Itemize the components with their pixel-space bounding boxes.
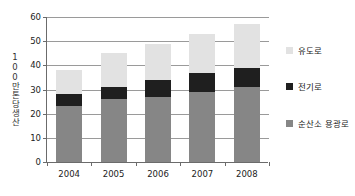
bar-group[interactable] [56,17,82,162]
bar-segment[interactable] [101,87,127,99]
x-axis-tick-label: 2008 [236,169,258,179]
bar-group[interactable] [234,17,260,162]
legend-swatch-icon [286,47,293,54]
bar-segment[interactable] [56,70,82,94]
legend-swatch-icon [286,83,293,90]
x-axis-tick-mark [136,162,137,166]
y-axis-tick-label: 40 [30,60,41,70]
stacked-bar-chart: 100만톤당생산 0102030405060 20042005200620072… [0,0,355,196]
y-axis-tick-label: 20 [30,109,41,119]
bar-segment[interactable] [234,24,260,68]
y-axis-tick-label: 10 [30,133,41,143]
x-axis-tick-mark [91,162,92,166]
bar-segment[interactable] [189,92,215,162]
legend-label: 순산소 용광로 [298,117,349,129]
y-axis-tick-label: 0 [36,157,41,167]
bar-segment[interactable] [234,68,260,87]
x-axis-tick-mark [47,162,48,166]
legend-item[interactable]: 순산소 용광로 [286,117,349,129]
bar-segment[interactable] [101,53,127,87]
x-axis-tick-label: 2007 [192,169,214,179]
y-axis-tick-label: 30 [30,85,41,95]
legend-item[interactable]: 유도로 [286,44,322,56]
x-axis-tick-mark [225,162,226,166]
bar-segment[interactable] [56,94,82,106]
bar-segment[interactable] [145,44,171,80]
legend-swatch-icon [286,120,293,127]
x-axis-tick-label: 2005 [103,169,125,179]
x-axis-tick-mark [180,162,181,166]
bar-group[interactable] [101,17,127,162]
bar-group[interactable] [189,17,215,162]
plot-area: 0102030405060 20042005200620072008 [46,17,268,163]
bar-segment[interactable] [234,87,260,162]
bar-segment[interactable] [145,80,171,97]
bar-segment[interactable] [145,97,171,162]
legend-label: 유도로 [298,44,322,56]
bar-segment[interactable] [189,34,215,73]
bar-segment[interactable] [101,99,127,162]
legend-label: 전기로 [298,80,322,92]
bar-segment[interactable] [56,106,82,162]
legend-item[interactable]: 전기로 [286,80,322,92]
y-axis-title: 100만톤당생산 [2,14,20,164]
x-axis-tick-label: 2004 [58,169,80,179]
bar-segment[interactable] [189,73,215,92]
x-axis-tick-mark [269,162,270,166]
y-axis-tick-label: 50 [30,36,41,46]
y-axis-tick-label: 60 [30,12,41,22]
bars-layer [47,17,269,162]
bar-group[interactable] [145,17,171,162]
x-axis-tick-label: 2006 [147,169,169,179]
